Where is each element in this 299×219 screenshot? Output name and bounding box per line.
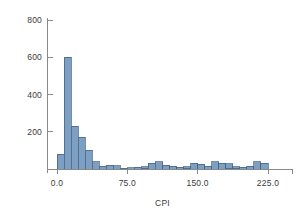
histogram-chart: 200400600800 0.075.0150.0225.0 CPI xyxy=(0,0,299,219)
y-axis-tick-label: 600 xyxy=(27,52,42,62)
histogram-bar xyxy=(261,163,268,169)
histogram-bar xyxy=(71,126,78,169)
histogram-bar xyxy=(163,165,170,169)
histogram-bar xyxy=(85,150,92,169)
chart-background xyxy=(0,0,299,219)
histogram-bar xyxy=(113,166,120,169)
x-axis-tick-label: 225.0 xyxy=(257,178,279,188)
histogram-bar xyxy=(57,154,64,169)
histogram-bar xyxy=(64,57,71,169)
histogram-bar xyxy=(212,162,219,169)
y-axis-tick-label: 200 xyxy=(27,127,42,137)
y-axis-tick-label: 400 xyxy=(27,90,42,100)
histogram-bar xyxy=(198,164,205,169)
histogram-bar xyxy=(191,163,198,169)
histogram-bar xyxy=(226,164,233,169)
chart-canvas: 200400600800 0.075.0150.0225.0 CPI xyxy=(0,0,299,219)
histogram-bar xyxy=(92,162,99,169)
x-axis-title: CPI xyxy=(155,198,170,208)
histogram-bar xyxy=(254,162,261,169)
histogram-bar xyxy=(155,162,162,169)
x-axis-tick-label: 0.0 xyxy=(51,178,63,188)
histogram-bar xyxy=(219,163,226,169)
histogram-bar xyxy=(148,163,155,169)
histogram-bar xyxy=(78,137,85,169)
y-axis-tick-label: 800 xyxy=(27,15,42,25)
x-axis-tick-label: 75.0 xyxy=(119,178,136,188)
x-axis-tick-label: 150.0 xyxy=(187,178,209,188)
histogram-bar xyxy=(106,165,113,169)
